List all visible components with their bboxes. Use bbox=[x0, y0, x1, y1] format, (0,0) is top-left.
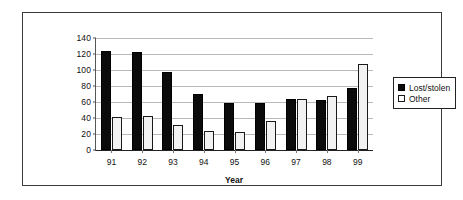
bar-lost-stolen-98[interactable] bbox=[316, 100, 326, 150]
bar-group: 93 bbox=[158, 38, 189, 150]
x-axis-tick-mark bbox=[204, 150, 205, 153]
x-axis-tick-mark bbox=[296, 150, 297, 153]
x-axis-tick-label: 96 bbox=[261, 157, 270, 167]
bar-other-92[interactable] bbox=[143, 116, 153, 150]
legend-label-other: Other bbox=[409, 94, 430, 104]
x-axis-tick-label: 97 bbox=[291, 157, 300, 167]
x-axis-tick-label: 95 bbox=[230, 157, 239, 167]
bar-group: 94 bbox=[188, 38, 219, 150]
y-axis-tick-label: 140 bbox=[77, 33, 91, 43]
bar-other-96[interactable] bbox=[266, 121, 276, 150]
x-axis-tick-label: 94 bbox=[199, 157, 208, 167]
bar-lost-stolen-93[interactable] bbox=[162, 72, 172, 150]
x-axis-tick-mark bbox=[327, 150, 328, 153]
y-axis-tick-label: 60 bbox=[81, 97, 91, 107]
bar-lost-stolen-97[interactable] bbox=[286, 99, 296, 150]
bar-lost-stolen-99[interactable] bbox=[347, 88, 357, 150]
bar-lost-stolen-94[interactable] bbox=[193, 94, 203, 150]
bar-lost-stolen-96[interactable] bbox=[255, 103, 265, 150]
x-axis-tick-mark bbox=[173, 150, 174, 153]
bar-other-94[interactable] bbox=[204, 131, 214, 150]
legend-label-lost-stolen: Lost/stolen bbox=[409, 83, 450, 93]
bar-group: 99 bbox=[342, 38, 373, 150]
bar-lost-stolen-92[interactable] bbox=[132, 52, 142, 150]
x-axis-tick-label: 98 bbox=[322, 157, 331, 167]
legend-item-lost-stolen: Lost/stolen bbox=[398, 82, 450, 93]
bar-lost-stolen-91[interactable] bbox=[101, 51, 111, 150]
y-axis-tick-label: 40 bbox=[81, 113, 91, 123]
bar-other-97[interactable] bbox=[297, 99, 307, 150]
x-axis-tick-mark bbox=[235, 150, 236, 153]
bar-other-91[interactable] bbox=[112, 117, 122, 150]
bar-group: 91 bbox=[96, 38, 127, 150]
x-axis-tick-mark bbox=[111, 150, 112, 153]
bar-other-93[interactable] bbox=[173, 125, 183, 150]
bar-group: 92 bbox=[127, 38, 158, 150]
x-axis-tick-label: 93 bbox=[168, 157, 177, 167]
y-axis-tick-label: 20 bbox=[81, 129, 91, 139]
plot-area: 020406080100120140 919293949596979899 bbox=[95, 38, 373, 151]
x-axis-tick-label: 91 bbox=[107, 157, 116, 167]
bar-group: 96 bbox=[250, 38, 281, 150]
x-axis-tick-label: 92 bbox=[137, 157, 146, 167]
x-axis-tick-mark bbox=[142, 150, 143, 153]
bar-other-98[interactable] bbox=[327, 96, 337, 150]
bars-layer: 919293949596979899 bbox=[96, 38, 373, 150]
x-axis-title: Year bbox=[95, 175, 373, 185]
bar-other-95[interactable] bbox=[235, 132, 245, 150]
bar-group: 95 bbox=[219, 38, 250, 150]
chart-outer-frame: 020406080100120140 919293949596979899 Ye… bbox=[22, 12, 442, 186]
chart-legend: Lost/stolen Other bbox=[393, 77, 456, 109]
filled-black-square-icon bbox=[398, 84, 405, 91]
bar-lost-stolen-95[interactable] bbox=[224, 103, 234, 150]
x-axis-tick-mark bbox=[358, 150, 359, 153]
bar-group: 98 bbox=[311, 38, 342, 150]
y-axis-tick-label: 120 bbox=[77, 49, 91, 59]
chart-figure: 020406080100120140 919293949596979899 Ye… bbox=[0, 0, 463, 200]
legend-item-other: Other bbox=[398, 93, 450, 104]
x-axis-tick-label: 99 bbox=[353, 157, 362, 167]
x-axis-tick-mark bbox=[265, 150, 266, 153]
outlined-white-square-icon bbox=[398, 95, 405, 102]
y-axis-tick-label: 0 bbox=[86, 145, 91, 155]
y-axis-tick-label: 100 bbox=[77, 65, 91, 75]
bar-group: 97 bbox=[281, 38, 312, 150]
y-axis-tick-label: 80 bbox=[81, 81, 91, 91]
bar-other-99[interactable] bbox=[358, 64, 368, 150]
